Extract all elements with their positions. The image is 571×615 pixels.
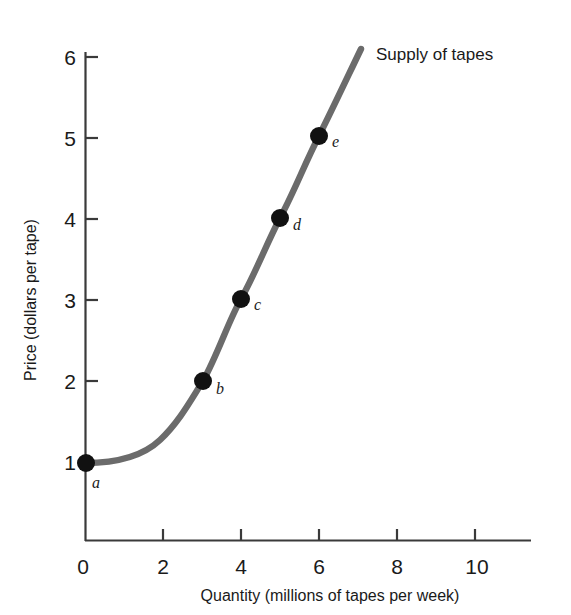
data-point-labels: a b c d e <box>92 133 339 491</box>
x-tick-label-0: 0 <box>77 555 89 578</box>
x-tick-label-4: 4 <box>235 555 247 578</box>
axis-lines <box>85 52 531 541</box>
chart-canvas: 6 5 4 3 2 1 0 2 4 6 8 10 Price (dollars … <box>0 0 571 615</box>
y-tick-labels: 6 5 4 3 2 1 <box>64 46 76 474</box>
data-point-d <box>271 209 289 227</box>
x-tick-label-10: 10 <box>465 555 488 578</box>
data-point-label-e: e <box>332 133 339 150</box>
y-tick-label-6: 6 <box>64 46 76 69</box>
data-point-label-b: b <box>216 380 224 397</box>
y-tick-label-4: 4 <box>64 208 76 231</box>
y-tick-label-5: 5 <box>64 127 76 150</box>
x-tick-label-2: 2 <box>157 555 169 578</box>
supply-curve-figure: 6 5 4 3 2 1 0 2 4 6 8 10 Price (dollars … <box>0 0 571 615</box>
data-points <box>77 127 328 472</box>
data-point-label-d: d <box>293 216 302 233</box>
y-axis-title: Price (dollars per tape) <box>22 219 39 381</box>
y-tick-label-3: 3 <box>64 289 76 312</box>
data-point-e <box>310 127 328 145</box>
supply-curve <box>85 49 361 463</box>
x-axis-ticks <box>163 529 475 540</box>
x-axis-title: Quantity (millions of tapes per week) <box>201 587 460 604</box>
data-point-label-c: c <box>254 296 261 313</box>
x-tick-label-8: 8 <box>391 555 403 578</box>
curve-legend-label: Supply of tapes <box>376 45 493 64</box>
data-point-label-a: a <box>92 474 100 491</box>
y-tick-label-2: 2 <box>64 370 76 393</box>
data-point-c <box>232 290 250 308</box>
x-tick-label-6: 6 <box>313 555 325 578</box>
x-tick-labels: 0 2 4 6 8 10 <box>77 555 489 578</box>
data-point-b <box>194 372 212 390</box>
y-tick-label-1: 1 <box>64 451 76 474</box>
y-axis-ticks <box>85 57 98 462</box>
data-point-a <box>77 454 95 472</box>
